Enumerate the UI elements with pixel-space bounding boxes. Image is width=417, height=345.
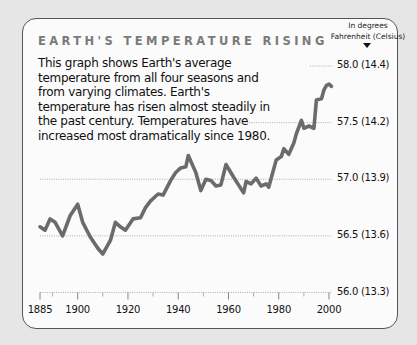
x-tick-label: 1885 [28, 304, 53, 315]
y-tick-label: 57.0 (13.9) [337, 172, 389, 183]
y-tick-label: 56.5 (13.6) [337, 229, 389, 240]
x-tick-label: 1920 [116, 304, 141, 315]
x-tick-label: 1900 [65, 304, 90, 315]
x-tick-label: 1980 [266, 304, 291, 315]
x-tick-label: 1940 [166, 304, 191, 315]
y-tick-label: 58.0 (14.4) [337, 59, 389, 70]
y-tick-label: 56.0 (13.3) [337, 286, 389, 297]
y-tick-label: 57.5 (14.2) [337, 116, 389, 127]
x-tick-label: 1960 [216, 304, 241, 315]
x-tick-label: 2000 [317, 304, 342, 315]
temperature-line [40, 84, 332, 254]
